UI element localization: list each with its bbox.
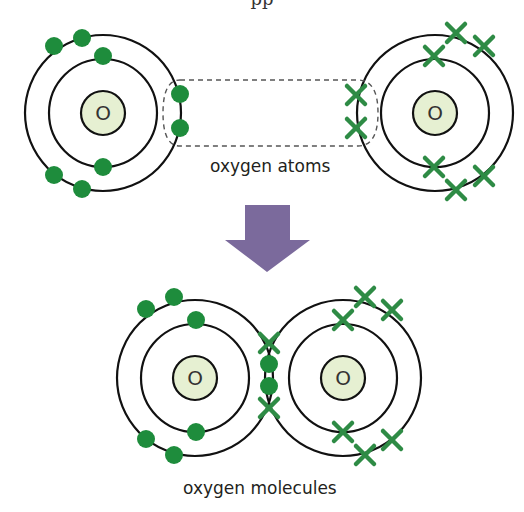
- electron-dot: [94, 158, 112, 176]
- shared-electron-cross: [260, 334, 278, 352]
- bonding-electron-cross: [347, 119, 365, 137]
- oxygen-molecule: O O: [117, 288, 421, 464]
- electron-cross: [383, 431, 401, 449]
- nucleus-symbol: O: [95, 101, 111, 125]
- electron-cross: [334, 311, 352, 329]
- top-left-oxygen-atom: O: [25, 29, 189, 198]
- electron-dot: [45, 37, 63, 55]
- nucleus-symbol: O: [427, 101, 443, 125]
- right-nucleus-symbol: O: [335, 366, 351, 390]
- top-right-oxygen-atom: O: [347, 24, 513, 199]
- shared-electron-dot: [260, 377, 278, 395]
- shared-electron-dot: [260, 355, 278, 373]
- electron-dot: [73, 29, 91, 47]
- oxygen-molecules-caption: oxygen molecules: [183, 478, 337, 498]
- electron-cross: [475, 167, 493, 185]
- electron-dot: [94, 47, 112, 65]
- electron-dot: [137, 430, 155, 448]
- bonding-electron-dot: [171, 119, 189, 137]
- left-nucleus-symbol: O: [187, 366, 203, 390]
- oxygen-bonding-diagram: O O O: [0, 0, 524, 512]
- electron-dot: [165, 288, 183, 306]
- bonding-electron-cross: [347, 86, 365, 104]
- electron-dot: [45, 166, 63, 184]
- electron-dot: [137, 300, 155, 318]
- electron-cross: [447, 24, 465, 42]
- electron-dot: [187, 311, 205, 329]
- oxygen-atoms-caption: oxygen atoms: [210, 156, 330, 176]
- electron-dot: [187, 423, 205, 441]
- electron-cross: [425, 47, 443, 65]
- electron-dot: [165, 446, 183, 464]
- down-arrow-icon: [225, 205, 310, 272]
- electron-dot: [73, 180, 91, 198]
- bonding-electron-dot: [171, 85, 189, 103]
